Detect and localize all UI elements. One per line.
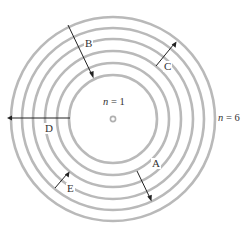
transition-label-a: A <box>151 158 161 169</box>
level-value: 6 <box>234 112 239 123</box>
nucleus-icon <box>110 116 115 121</box>
orbit-ring-n5 <box>22 28 204 210</box>
level-label-n6: n = 6 <box>217 113 241 124</box>
level-value: 1 <box>119 96 124 107</box>
orbit-svg <box>0 0 252 231</box>
level-equals: = <box>108 96 119 107</box>
transition-label-d: D <box>44 123 54 134</box>
transition-arrow-d <box>7 116 70 121</box>
bohr-orbit-diagram: B C D E A n = 1 n = 6 <box>0 0 252 231</box>
transition-label-e: E <box>66 183 75 194</box>
transition-label-c: C <box>163 61 172 72</box>
orbit-ring-n6 <box>11 17 215 221</box>
level-equals: = <box>223 112 234 123</box>
transition-label-b: B <box>84 38 93 49</box>
orbit-ring-n1 <box>69 75 157 163</box>
level-label-n1: n = 1 <box>102 97 126 108</box>
